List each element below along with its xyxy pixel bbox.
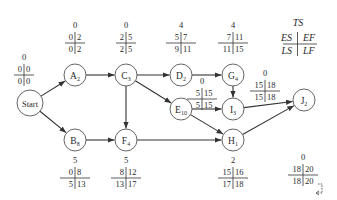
node-duration: 3 [233, 110, 236, 116]
node-duration: 3 [128, 76, 131, 82]
node-C[interactable]: C3 [115, 64, 137, 86]
node-label: Start [22, 99, 39, 109]
late-finish: 11 [183, 44, 191, 54]
early-finish: 12 [128, 167, 137, 177]
early-start: 15 [223, 167, 232, 177]
legend-ef: EF [302, 32, 316, 43]
timing-table-H: 215161718 [218, 155, 248, 189]
node-D[interactable]: D2 [170, 64, 192, 86]
timing-table-I: 015181518 [250, 68, 280, 102]
timing-table-G: 47111115 [218, 20, 248, 54]
nodes-layer: StartA2C3D2G4E10I3J2B8F4H1 [17, 64, 315, 151]
late-start: 0 [69, 44, 73, 54]
late-finish: 15 [235, 44, 244, 54]
early-finish: 18 [267, 80, 276, 90]
total-slack: 0 [22, 52, 26, 62]
late-start: 18 [293, 176, 302, 186]
total-slack: 0 [301, 152, 305, 162]
node-duration: 8 [77, 141, 80, 147]
late-finish: 15 [204, 100, 213, 110]
early-finish: 2 [77, 32, 81, 42]
late-start: 2 [120, 44, 124, 54]
early-start: 0 [69, 167, 73, 177]
early-start: 5 [175, 32, 179, 42]
early-finish: 8 [77, 167, 81, 177]
node-duration: 1 [235, 141, 238, 147]
late-finish: 2 [77, 44, 81, 54]
early-start: 7 [227, 32, 231, 42]
edge-E-H [190, 115, 223, 134]
node-I[interactable]: I3 [222, 98, 244, 120]
node-E[interactable]: E10 [170, 98, 192, 120]
late-start: 9 [175, 44, 179, 54]
late-start: 0 [18, 76, 22, 86]
timing-table-F: 58121317 [111, 155, 141, 189]
total-slack: 0 [73, 20, 77, 30]
node-A[interactable]: A2 [64, 64, 86, 86]
timing-table-C: 02525 [116, 20, 136, 54]
late-start: 17 [223, 179, 232, 189]
early-finish: 16 [235, 167, 244, 177]
node-duration: 2 [77, 76, 80, 82]
late-start: 5 [69, 179, 73, 189]
total-slack: 0 [124, 20, 128, 30]
edge-start-B [40, 111, 66, 132]
timing-table-start: 00000 [14, 52, 34, 86]
early-finish: 7 [183, 32, 187, 42]
node-J[interactable]: J2 [293, 89, 315, 111]
early-finish: 15 [204, 88, 213, 98]
early-start: 2 [120, 32, 124, 42]
node-duration: 2 [304, 101, 307, 107]
node-B[interactable]: B8 [64, 129, 86, 151]
network-canvas: StartA2C3D2G4E10I3J2B8F4H1 0000000202025… [0, 0, 337, 200]
early-finish: 0 [26, 64, 30, 74]
late-finish: 20 [305, 176, 314, 186]
node-start[interactable]: Start [17, 90, 43, 116]
total-slack: 4 [231, 20, 236, 30]
early-start: 18 [293, 164, 302, 174]
total-slack: 5 [124, 155, 128, 165]
edge-I-J [244, 101, 293, 107]
timing-table-B: 508513 [60, 155, 90, 189]
timing-table-A: 00202 [65, 20, 85, 54]
total-slack: 5 [73, 155, 77, 165]
total-slack: 4 [179, 20, 184, 30]
early-finish: 11 [235, 32, 243, 42]
late-start: 11 [223, 44, 231, 54]
late-start: 5 [196, 100, 200, 110]
early-start: 5 [196, 88, 200, 98]
node-F[interactable]: F4 [115, 129, 137, 151]
node-duration: 4 [127, 141, 130, 147]
early-start: 0 [69, 32, 73, 42]
node-duration: 4 [235, 76, 238, 82]
node-G[interactable]: G4 [222, 64, 244, 86]
early-finish: 5 [128, 32, 132, 42]
legend-ts: TS [293, 17, 304, 28]
node-circle [170, 98, 192, 120]
legend-es: ES [280, 32, 292, 43]
node-duration: 2 [183, 76, 186, 82]
late-finish: 18 [235, 179, 244, 189]
legend: TS ES EF LS LF [280, 17, 317, 56]
total-slack: 0 [263, 68, 267, 78]
late-finish: 18 [267, 92, 276, 102]
timing-table-J: 018201820 [288, 152, 318, 186]
early-start: 0 [18, 64, 22, 74]
late-finish: 17 [128, 179, 137, 189]
late-finish: 13 [77, 179, 86, 189]
late-start: 15 [255, 92, 264, 102]
edge-start-A [41, 81, 65, 96]
early-start: 15 [255, 80, 264, 90]
total-slack: 0 [200, 76, 204, 86]
legend-ls: LS [280, 45, 292, 56]
edge-H-J [243, 106, 294, 135]
early-start: 8 [120, 167, 124, 177]
node-H[interactable]: H1 [222, 129, 244, 151]
edge-C-E [135, 81, 171, 103]
late-finish: 5 [128, 44, 132, 54]
total-slack: 2 [231, 155, 235, 165]
legend-lf: LF [302, 45, 316, 56]
early-finish: 20 [305, 164, 314, 174]
late-start: 13 [116, 179, 125, 189]
timing-table-D: 457911 [166, 20, 196, 54]
